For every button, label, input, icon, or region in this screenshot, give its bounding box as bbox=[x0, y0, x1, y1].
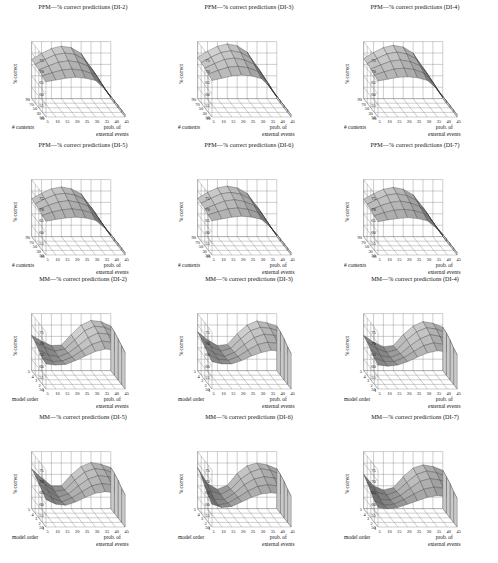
x-axis-label-line2: external events bbox=[96, 131, 128, 138]
x-axis-label-line1: prob. of bbox=[262, 396, 294, 403]
svg-text:65: 65 bbox=[205, 80, 210, 85]
x-axis-label-line2: external events bbox=[428, 269, 460, 276]
svg-text:5: 5 bbox=[46, 119, 49, 124]
panel-pfm-di4: PFM—% correct predictions (DI-4)50556065… bbox=[332, 4, 498, 144]
svg-text:65: 65 bbox=[39, 490, 44, 495]
svg-text:10: 10 bbox=[40, 254, 45, 259]
z-axis-label: % correct bbox=[12, 336, 18, 356]
svg-text:65: 65 bbox=[39, 80, 44, 85]
plot-area: 505560657075510152025303540459070503010 bbox=[166, 13, 332, 136]
x-axis-label-line1: prob. of bbox=[428, 124, 460, 131]
panel-mm-di4: MM—% correct predictions (DI-4)505560657… bbox=[332, 276, 498, 416]
x-axis-label-line1: prob. of bbox=[428, 262, 460, 269]
surface-skirt bbox=[277, 469, 291, 527]
panel-mm-di6: MM—% correct predictions (DI-6)505560657… bbox=[166, 414, 332, 554]
x-axis-label: prob. ofexternal events bbox=[428, 124, 460, 137]
svg-text:75: 75 bbox=[39, 58, 44, 63]
svg-text:15: 15 bbox=[65, 257, 70, 262]
svg-text:60: 60 bbox=[39, 92, 44, 97]
plot-area: 5055606570755101520253035404554321 bbox=[0, 285, 166, 408]
svg-text:25: 25 bbox=[251, 529, 256, 534]
depth-axis-label: # contexts bbox=[12, 262, 34, 268]
svg-text:5: 5 bbox=[46, 257, 49, 262]
svg-text:3: 3 bbox=[367, 378, 370, 383]
svg-text:20: 20 bbox=[407, 529, 412, 534]
surface-mesh bbox=[364, 45, 458, 114]
plot-area: 5055606570755101520253035404554321 bbox=[166, 285, 332, 408]
svg-text:60: 60 bbox=[205, 92, 210, 97]
panel-title: MM—% correct predictions (DI-2) bbox=[0, 276, 166, 282]
svg-text:4: 4 bbox=[363, 374, 366, 379]
svg-text:70: 70 bbox=[371, 69, 376, 74]
depth-axis-label: model order bbox=[12, 534, 38, 540]
z-axis-label: % correct bbox=[178, 64, 184, 84]
svg-text:65: 65 bbox=[371, 490, 376, 495]
plot-area: 505560657075510152025303540459070503010 bbox=[332, 13, 498, 136]
svg-text:5: 5 bbox=[378, 529, 381, 534]
panel-mm-di2: MM—% correct predictions (DI-2)505560657… bbox=[0, 276, 166, 416]
surface-mesh bbox=[32, 46, 126, 115]
panel-pfm-di2: PFM—% correct predictions (DI-2)50556065… bbox=[0, 4, 166, 144]
svg-text:70: 70 bbox=[371, 479, 376, 484]
svg-text:2: 2 bbox=[205, 521, 207, 526]
surface-skirt bbox=[277, 326, 291, 389]
z-axis-label: % correct bbox=[12, 202, 18, 222]
svg-text:55: 55 bbox=[205, 103, 210, 108]
surface-plot-grid: PFM—% correct predictions (DI-2)50556065… bbox=[0, 0, 498, 563]
svg-text:60: 60 bbox=[371, 502, 376, 507]
svg-text:2: 2 bbox=[371, 521, 373, 526]
svg-text:75: 75 bbox=[371, 330, 376, 335]
svg-text:55: 55 bbox=[205, 513, 210, 518]
svg-text:25: 25 bbox=[417, 529, 422, 534]
svg-text:15: 15 bbox=[397, 391, 402, 396]
svg-text:2: 2 bbox=[39, 383, 41, 388]
svg-text:55: 55 bbox=[371, 375, 376, 380]
svg-text:1: 1 bbox=[374, 388, 376, 393]
panel-mm-di5: MM—% correct predictions (DI-5)505560657… bbox=[0, 414, 166, 554]
x-axis-label-line1: prob. of bbox=[428, 534, 460, 541]
x-axis-label: prob. ofexternal events bbox=[428, 534, 460, 547]
svg-text:10: 10 bbox=[206, 254, 211, 259]
svg-text:60: 60 bbox=[39, 502, 44, 507]
svg-text:20: 20 bbox=[241, 119, 246, 124]
svg-text:65: 65 bbox=[205, 352, 210, 357]
svg-text:65: 65 bbox=[39, 352, 44, 357]
svg-text:10: 10 bbox=[55, 257, 60, 262]
x-axis-label: prob. ofexternal events bbox=[428, 396, 460, 409]
svg-text:25: 25 bbox=[417, 391, 422, 396]
panel-title: MM—% correct predictions (DI-6) bbox=[166, 414, 332, 420]
svg-text:15: 15 bbox=[65, 529, 70, 534]
x-axis-label-line1: prob. of bbox=[262, 124, 294, 131]
x-axis-label-line1: prob. of bbox=[262, 534, 294, 541]
svg-text:10: 10 bbox=[221, 529, 226, 534]
depth-axis-label: model order bbox=[178, 534, 204, 540]
svg-text:20: 20 bbox=[75, 119, 80, 124]
x-axis-label-line1: prob. of bbox=[96, 124, 128, 131]
svg-text:10: 10 bbox=[221, 257, 226, 262]
svg-text:2: 2 bbox=[39, 521, 41, 526]
svg-text:60: 60 bbox=[205, 364, 210, 369]
x-axis-label: prob. ofexternal events bbox=[262, 124, 294, 137]
x-axis-label: prob. ofexternal events bbox=[96, 534, 128, 547]
x-axis-label-line2: external events bbox=[262, 541, 294, 548]
svg-text:60: 60 bbox=[205, 502, 210, 507]
svg-text:5: 5 bbox=[46, 391, 49, 396]
svg-text:70: 70 bbox=[371, 207, 376, 212]
svg-text:65: 65 bbox=[39, 218, 44, 223]
svg-text:60: 60 bbox=[205, 230, 210, 235]
svg-text:75: 75 bbox=[371, 468, 376, 473]
panel-title: MM—% correct predictions (DI-4) bbox=[332, 276, 498, 282]
x-axis-label-line2: external events bbox=[96, 403, 128, 410]
svg-text:55: 55 bbox=[39, 513, 44, 518]
svg-text:60: 60 bbox=[371, 230, 376, 235]
x-axis-label-line2: external events bbox=[428, 403, 460, 410]
svg-text:10: 10 bbox=[387, 257, 392, 262]
x-axis-label: prob. ofexternal events bbox=[96, 396, 128, 409]
svg-text:25: 25 bbox=[85, 529, 90, 534]
svg-text:55: 55 bbox=[371, 513, 376, 518]
svg-text:70: 70 bbox=[39, 479, 44, 484]
x-axis-label-line1: prob. of bbox=[262, 262, 294, 269]
plot-area: 5055606570755101520253035404554321 bbox=[166, 423, 332, 546]
svg-text:3: 3 bbox=[367, 516, 370, 521]
svg-text:60: 60 bbox=[39, 364, 44, 369]
